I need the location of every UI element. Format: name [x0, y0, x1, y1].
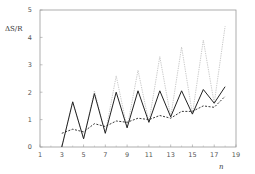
x-tick-label: 13 — [167, 151, 175, 159]
axis-ticks: 135791113151719012345 — [28, 6, 240, 159]
y-axis-label: ΔS/R — [5, 25, 23, 33]
x-tick-label: 7 — [103, 151, 107, 159]
y-tick-label: 2 — [28, 89, 32, 97]
y-tick-label: 4 — [28, 34, 32, 42]
plot-frame — [40, 10, 236, 147]
x-tick-label: 15 — [188, 151, 196, 159]
y-tick-label: 5 — [28, 6, 32, 14]
x-tick-label: 3 — [60, 151, 64, 159]
series-solid-line — [62, 87, 225, 147]
y-tick-label: 0 — [28, 143, 32, 151]
x-tick-label: 9 — [125, 151, 129, 159]
x-tick-label: 5 — [81, 151, 85, 159]
x-tick-label: 11 — [145, 151, 153, 159]
x-tick-label: 19 — [232, 151, 240, 159]
x-tick-label: 17 — [210, 151, 218, 159]
x-axis-label: n — [219, 163, 224, 171]
x-tick-label: 1 — [38, 151, 42, 159]
data-series — [62, 26, 225, 147]
y-tick-label: 1 — [28, 116, 32, 124]
y-tick-label: 3 — [28, 61, 32, 69]
chart: 135791113151719012345 ΔS/R n — [0, 0, 255, 174]
